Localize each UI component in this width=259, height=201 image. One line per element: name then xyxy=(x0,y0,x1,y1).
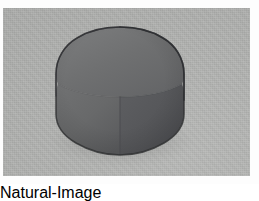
rounded-cube-solid xyxy=(0,0,259,184)
render-canvas xyxy=(0,0,259,184)
